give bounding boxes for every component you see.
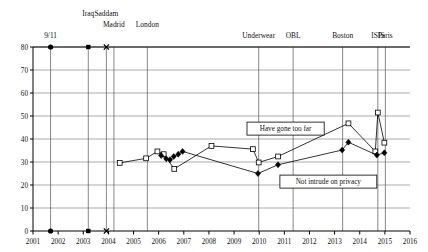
callout-label: Not intrude on privacy <box>296 178 362 186</box>
time-series-chart: 01020304050607080 2001200220032004200520… <box>0 0 428 252</box>
x-axis-tick-label: 2013 <box>327 238 342 246</box>
x-axis-tick-label: 2015 <box>378 238 393 246</box>
series-callout: Not intrude on privacy <box>280 175 377 188</box>
data-point-marker <box>346 121 351 126</box>
x-axis-tick-label: 2001 <box>26 238 41 246</box>
event-label: Paris <box>378 31 393 40</box>
event-label: Madrid <box>103 20 125 29</box>
series-callout: Have gone too far <box>247 122 324 135</box>
x-axis-tick-label: 2007 <box>177 238 192 246</box>
x-axis-tick-label: 2002 <box>51 238 66 246</box>
event-label: Iraq <box>82 9 94 18</box>
data-point-marker <box>209 144 214 149</box>
y-axis-tick-label: 40 <box>21 136 29 144</box>
y-axis-tick-label: 20 <box>21 182 29 190</box>
data-point-marker <box>117 161 122 166</box>
data-point-marker <box>382 140 387 145</box>
x-axis-tick-label: 2005 <box>126 238 141 246</box>
y-axis-tick-label: 30 <box>21 159 29 167</box>
y-axis-tick-label: 0 <box>24 228 28 236</box>
data-point-marker <box>155 149 160 154</box>
event-label: London <box>136 20 159 29</box>
event-label: Saddam <box>94 9 118 18</box>
x-axis-tick-label: 2009 <box>227 238 242 246</box>
x-axis-tick-label: 2006 <box>151 238 166 246</box>
y-axis-tick-label: 10 <box>21 205 29 213</box>
y-axis-tick-label: 70 <box>21 67 29 75</box>
chart-background <box>0 0 428 252</box>
event-baseline-marker <box>86 229 90 233</box>
event-baseline-marker <box>48 228 53 233</box>
y-axis-tick-label: 50 <box>21 113 29 121</box>
y-axis-tick-label: 60 <box>21 90 29 98</box>
data-point-marker <box>256 160 261 165</box>
data-point-marker <box>276 154 281 159</box>
x-axis-tick-label: 2003 <box>76 238 91 246</box>
data-point-marker <box>375 110 380 115</box>
x-axis-tick-label: 2010 <box>252 238 267 246</box>
y-axis-tick-label: 80 <box>21 44 29 52</box>
event-label: Boston <box>332 31 353 40</box>
event-top-marker <box>48 44 53 49</box>
event-label: OBL <box>286 31 301 40</box>
callout-label: Have gone too far <box>260 125 312 133</box>
event-top-marker <box>86 45 90 49</box>
x-axis-tick-label: 2004 <box>101 238 116 246</box>
x-axis-tick-label: 2014 <box>353 238 368 246</box>
data-point-marker <box>172 167 177 172</box>
chart-container: 01020304050607080 2001200220032004200520… <box>0 0 428 252</box>
x-axis-tick-label: 2016 <box>403 238 418 246</box>
data-point-marker <box>251 147 256 152</box>
event-label: 9/11 <box>44 31 57 40</box>
data-point-marker <box>144 156 149 161</box>
x-axis-tick-label: 2008 <box>202 238 217 246</box>
x-axis-tick-label: 2011 <box>277 238 292 246</box>
x-axis-tick-label: 2012 <box>302 238 317 246</box>
event-label: Underwear <box>242 31 275 40</box>
